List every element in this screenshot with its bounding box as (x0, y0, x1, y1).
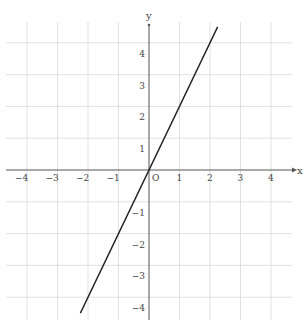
x-tick-label: −4 (15, 173, 29, 183)
y-tick-label: −2 (132, 240, 145, 250)
x-tick-label: −2 (76, 173, 89, 183)
x-tick-label: 2 (207, 173, 213, 183)
origin-label: O (152, 173, 159, 183)
y-tick-label: 1 (139, 144, 145, 154)
y-tick-label: −3 (132, 271, 146, 281)
coordinate-plane: x y O −4−3−2−11234 4321−1−2−3−4 (0, 0, 306, 331)
x-tick-label: 1 (177, 173, 183, 183)
x-axis-label: x (297, 165, 303, 176)
y-tick-label: 4 (139, 49, 145, 59)
y-tick-label: −4 (132, 303, 146, 313)
y-tick-label: 2 (139, 112, 145, 122)
y-tick-label: −1 (132, 208, 145, 218)
x-tick-label: 3 (238, 173, 244, 183)
x-tick-label: 4 (268, 173, 274, 183)
axes: x y O (6, 10, 303, 320)
y-tick-label: 3 (139, 81, 145, 91)
y-axis-label: y (145, 10, 152, 21)
y-axis-arrow-icon (148, 24, 151, 27)
x-tick-label: −3 (46, 173, 60, 183)
x-tick-label: −1 (107, 173, 120, 183)
